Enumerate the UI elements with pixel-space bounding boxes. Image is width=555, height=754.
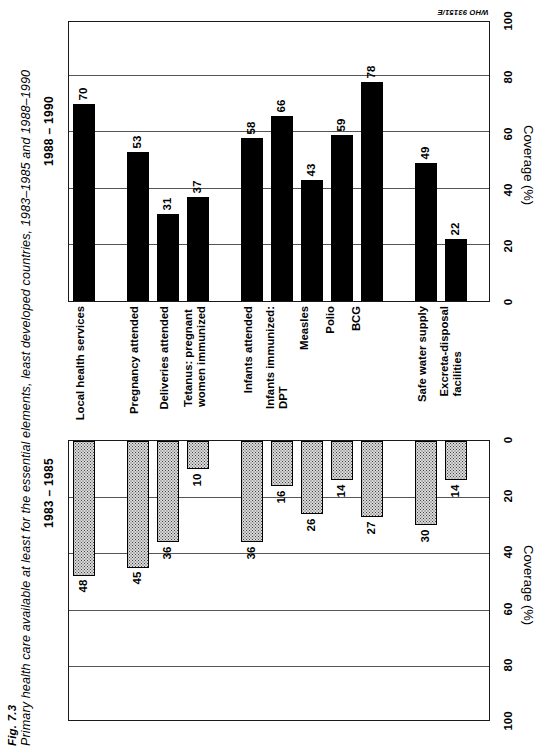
bar-top-safe-water-supply	[361, 82, 383, 301]
tick-bottom-60: 60	[502, 596, 514, 622]
tick-bottom-0: 0	[502, 427, 514, 453]
category-label-infants-immunized-dpt: Infants immunized: DPT	[264, 306, 289, 409]
category-label-measles: Measles	[298, 306, 311, 350]
value-label-top-4: 58	[246, 121, 258, 134]
tick-bottom-100: 100	[502, 708, 514, 734]
bar-bottom-safe-water-supply	[361, 441, 383, 517]
value-label-top-7: 59	[336, 118, 348, 131]
axis-title-bottom: Coverage (%)	[521, 545, 536, 625]
plot-area-top: 70 53 31 37 58 66 43 59 78 49 22	[69, 22, 489, 301]
tick-bottom-40: 40	[502, 539, 514, 565]
bar-bottom-excreta-a	[415, 441, 437, 525]
axis-title-top: Coverage (%)	[521, 125, 536, 205]
bar-bottom-excreta-b	[445, 441, 467, 480]
period-label-top: 1988 – 1990	[42, 96, 56, 166]
tick-top-0: 0	[502, 289, 514, 315]
value-label-top-0: 70	[78, 87, 90, 100]
value-label-top-2: 31	[162, 197, 174, 210]
bar-bottom-dpt	[241, 441, 263, 542]
value-label-bottom-5: 16	[276, 491, 288, 504]
value-label-bottom-0: 48	[78, 580, 90, 593]
value-label-top-1: 53	[132, 135, 144, 148]
category-label-safe-water-supply: Safe water supply	[416, 306, 429, 402]
value-label-top-9: 49	[420, 146, 432, 159]
value-label-bottom-3: 10	[192, 474, 204, 487]
category-label-bcg: BCG	[350, 306, 363, 331]
category-label-excreta-disposal: Excreta-disposal facilities	[438, 306, 463, 396]
gridline-80	[69, 75, 489, 76]
bar-top-tetanus-immunized	[187, 197, 209, 301]
chart-panel-1988-1990: 70 53 31 37 58 66 43 59 78 49 22	[68, 21, 490, 302]
category-label-polio: Polio	[324, 306, 337, 334]
gridline-b-60	[69, 610, 489, 611]
value-label-bottom-6: 26	[306, 519, 318, 532]
bar-bottom-pregnancy-attended	[127, 441, 149, 568]
value-label-bottom-7: 14	[336, 485, 348, 498]
value-label-bottom-1: 45	[132, 572, 144, 585]
chart-panel-1983-1985: 48 45 36 10 36 16 26 14 27 30 14	[68, 440, 490, 721]
category-axis-labels: Local health services Pregnancy attended…	[68, 306, 490, 436]
bar-top-deliveries-attended	[157, 214, 179, 301]
bar-top-excreta-b	[445, 239, 467, 301]
value-label-top-8: 78	[366, 65, 378, 78]
value-label-bottom-9: 30	[420, 530, 432, 543]
value-label-top-5: 66	[276, 99, 288, 112]
plot-area-bottom: 48 45 36 10 36 16 26 14 27 30 14	[69, 441, 489, 720]
figure-number: Fig. 7.3	[6, 8, 18, 746]
tick-bottom-20: 20	[502, 483, 514, 509]
bar-bottom-measles	[271, 441, 293, 486]
category-label-infants-attended: Infants attended	[242, 306, 255, 393]
value-label-bottom-10: 14	[450, 485, 462, 498]
tick-bottom-80: 80	[502, 652, 514, 678]
period-label-bottom: 1983 – 1985	[42, 458, 56, 528]
tick-top-20: 20	[502, 233, 514, 259]
value-label-bottom-8: 27	[366, 522, 378, 535]
category-label-local-health-services: Local health services	[74, 306, 87, 420]
value-label-top-3: 37	[192, 180, 204, 193]
tick-top-60: 60	[502, 121, 514, 147]
bar-bottom-bcg	[331, 441, 353, 480]
bar-bottom-polio	[301, 441, 323, 514]
bar-top-measles	[271, 116, 293, 302]
tick-top-40: 40	[502, 177, 514, 203]
bar-top-excreta-a	[415, 163, 437, 301]
value-label-bottom-4: 36	[246, 547, 258, 560]
gridline-b-80	[69, 666, 489, 667]
category-label-deliveries-attended: Deliveries attended	[158, 306, 171, 410]
category-label-tetanus-immunized: Tetanus: pregnant women immunized	[182, 306, 207, 407]
bar-top-dpt	[241, 138, 263, 301]
value-label-top-10: 22	[450, 222, 462, 235]
bar-top-polio	[301, 180, 323, 301]
bar-bottom-deliveries-attended	[157, 441, 179, 542]
category-label-pregnancy-attended: Pregnancy attended	[128, 306, 141, 414]
who-source-code: WHO 93151/E	[428, 5, 498, 19]
tick-top-80: 80	[502, 64, 514, 90]
bar-top-local-health-services	[73, 104, 95, 301]
bar-top-bcg	[331, 135, 353, 301]
tick-top-100: 100	[502, 8, 514, 34]
figure-caption: Primary health care available at least f…	[19, 8, 33, 746]
bar-bottom-local-health-services	[73, 441, 95, 576]
bar-top-pregnancy-attended	[127, 152, 149, 301]
value-label-bottom-2: 36	[162, 547, 174, 560]
bar-bottom-tetanus-immunized	[187, 441, 209, 469]
value-label-top-6: 43	[306, 163, 318, 176]
